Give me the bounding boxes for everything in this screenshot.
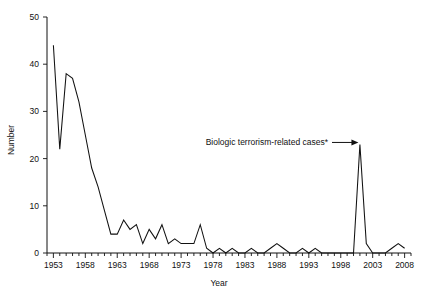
y-tick-label: 10: [30, 201, 40, 211]
y-tick-label: 20: [30, 154, 40, 164]
series-group: [53, 45, 404, 253]
y-tick-label: 0: [34, 248, 39, 258]
x-tick-label: 2003: [363, 260, 382, 270]
x-tick-label: 2008: [395, 260, 414, 270]
series-line-number-of-cases: [53, 45, 404, 253]
x-ticks-group: 1953195819631968197319781983198819931998…: [44, 253, 414, 270]
line-chart: 01020304050 1953195819631968197319781983…: [0, 0, 424, 295]
y-ticks-group: 01020304050: [30, 12, 47, 258]
x-tick-label: 1988: [267, 260, 286, 270]
axes-group: [47, 17, 411, 253]
y-axis-title: Number: [6, 125, 16, 155]
x-tick-label: 1953: [44, 260, 63, 270]
annotation-label: Biologic terrorism-related cases*: [206, 137, 329, 147]
chart-container: 01020304050 1953195819631968197319781983…: [0, 0, 424, 295]
annotation-arrowhead-icon: [351, 139, 358, 145]
x-tick-label: 1983: [236, 260, 255, 270]
x-tick-label: 1978: [204, 260, 223, 270]
x-axis-title: Year: [210, 278, 227, 288]
x-tick-label: 1998: [331, 260, 350, 270]
y-tick-label: 50: [30, 12, 40, 22]
x-tick-label: 1963: [108, 260, 127, 270]
x-tick-label: 1968: [140, 260, 159, 270]
y-tick-label: 40: [30, 59, 40, 69]
x-tick-label: 1973: [172, 260, 191, 270]
annotation-group: Biologic terrorism-related cases*: [206, 137, 359, 147]
x-tick-label: 1958: [76, 260, 95, 270]
x-tick-label: 1993: [299, 260, 318, 270]
y-tick-label: 30: [30, 106, 40, 116]
